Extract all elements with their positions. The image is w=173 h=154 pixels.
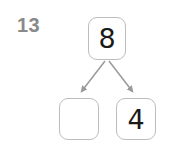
arrow-whole-to-right-part (109, 61, 133, 92)
bond-box-whole-value: 8 (98, 25, 115, 52)
number-bond-worksheet-item: 13 8 4 (0, 0, 173, 154)
bond-box-whole[interactable]: 8 (88, 17, 126, 60)
bond-box-part-left[interactable] (59, 98, 99, 140)
bond-box-part-right[interactable]: 4 (116, 98, 156, 140)
bond-box-part-right-value: 4 (127, 106, 144, 133)
arrow-whole-to-left-part (82, 61, 106, 92)
